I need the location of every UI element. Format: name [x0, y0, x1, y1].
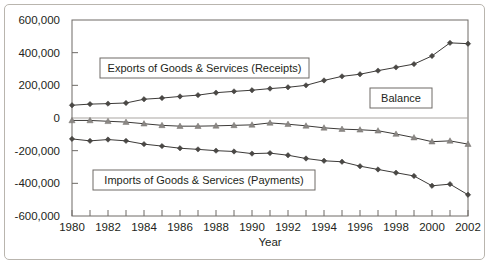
x-axis-tick-label: 1998: [383, 221, 409, 233]
data-point-marker: [159, 143, 164, 148]
y-axis-tick-label: 600,000: [18, 14, 60, 26]
x-axis-tick-label: 1980: [59, 221, 85, 233]
y-axis-tick-label: 400,000: [18, 47, 60, 59]
x-axis-tick-label: 1990: [239, 221, 265, 233]
data-point-marker: [375, 167, 380, 172]
data-point-marker: [105, 137, 110, 142]
chart-figure: 600,000400,000200,0000-200,000-400,000-6…: [0, 0, 490, 265]
data-point-marker: [465, 192, 470, 197]
data-point-marker: [285, 153, 290, 158]
data-point-marker: [339, 74, 344, 79]
series-callout-label: Exports of Goods & Services (Receipts): [108, 62, 302, 74]
data-point-marker: [411, 61, 416, 66]
data-point-marker: [123, 138, 128, 143]
x-axis-tick-label: 2002: [455, 221, 481, 233]
callout-3: Imports of Goods & Services (Payments): [93, 170, 315, 190]
data-point-marker: [321, 78, 326, 83]
x-axis-tick-label: 1992: [275, 221, 301, 233]
y-axis-tick-label: 0: [54, 112, 60, 124]
x-axis-tick-label: 2000: [419, 221, 445, 233]
data-point-marker: [303, 83, 308, 88]
data-point-marker: [159, 95, 164, 100]
data-point-marker: [195, 92, 200, 97]
data-point-marker: [447, 181, 452, 186]
data-point-marker: [267, 120, 273, 125]
data-point-marker: [321, 158, 326, 163]
data-point-marker: [105, 101, 110, 106]
data-point-marker: [123, 100, 128, 105]
data-point-marker: [141, 97, 146, 102]
balance-of-payments-line-chart: 600,000400,000200,0000-200,000-400,000-6…: [0, 0, 490, 265]
data-point-marker: [231, 149, 236, 154]
data-point-marker: [213, 90, 218, 95]
data-point-marker: [285, 85, 290, 90]
x-axis-tick-label: 1996: [347, 221, 373, 233]
plot-container: 600,000400,000200,0000-200,000-400,000-6…: [0, 0, 490, 265]
data-point-marker: [141, 141, 146, 146]
data-point-marker: [429, 183, 434, 188]
series-2: [69, 117, 471, 146]
data-point-marker: [267, 150, 272, 155]
x-axis-tick-label: 1984: [131, 221, 157, 233]
y-axis-tick-label: -400,000: [15, 177, 60, 189]
data-point-marker: [69, 103, 74, 108]
y-axis-tick-label: 200,000: [18, 79, 60, 91]
data-point-marker: [249, 151, 254, 156]
data-point-marker: [375, 68, 380, 73]
data-point-marker: [87, 101, 92, 106]
series-callout-label: Imports of Goods & Services (Payments): [104, 174, 303, 186]
data-point-marker: [195, 147, 200, 152]
data-point-marker: [87, 138, 92, 143]
data-point-marker: [177, 146, 182, 151]
series-callout-label: Balance: [381, 92, 421, 104]
data-point-marker: [465, 41, 470, 46]
x-axis-tick-label: 1982: [95, 221, 121, 233]
data-point-marker: [177, 94, 182, 99]
data-point-marker: [249, 88, 254, 93]
callout-2: Balance: [370, 88, 432, 108]
data-point-marker: [339, 159, 344, 164]
data-point-marker: [393, 170, 398, 175]
data-point-marker: [267, 86, 272, 91]
data-point-marker: [357, 72, 362, 77]
x-axis-tick-label: 1994: [311, 221, 337, 233]
y-axis-tick-label: -600,000: [15, 210, 60, 222]
x-axis-tick-label: 1986: [167, 221, 193, 233]
x-axis-title: Year: [258, 236, 281, 248]
data-point-marker: [393, 65, 398, 70]
data-point-marker: [213, 148, 218, 153]
data-point-marker: [231, 89, 236, 94]
y-axis-tick-label: -200,000: [15, 145, 60, 157]
data-point-marker: [69, 136, 74, 141]
data-point-marker: [411, 173, 416, 178]
data-point-marker: [357, 163, 362, 168]
x-axis-tick-label: 1988: [203, 221, 229, 233]
callout-1: Exports of Goods & Services (Receipts): [100, 58, 309, 78]
data-point-marker: [303, 156, 308, 161]
y-axis-group: 600,000400,000200,0000-200,000-400,000-6…: [15, 14, 78, 222]
